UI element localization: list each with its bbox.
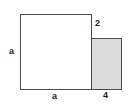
label-rectangle-height: 2 (95, 19, 100, 28)
geometry-figure: a a 2 4 (0, 0, 130, 105)
label-square-side-bottom: a (52, 92, 57, 101)
big-square-shape (20, 14, 92, 90)
label-rectangle-width: 4 (103, 91, 108, 100)
shaded-rectangle-shape (91, 38, 122, 90)
label-square-side-left: a (9, 47, 14, 56)
